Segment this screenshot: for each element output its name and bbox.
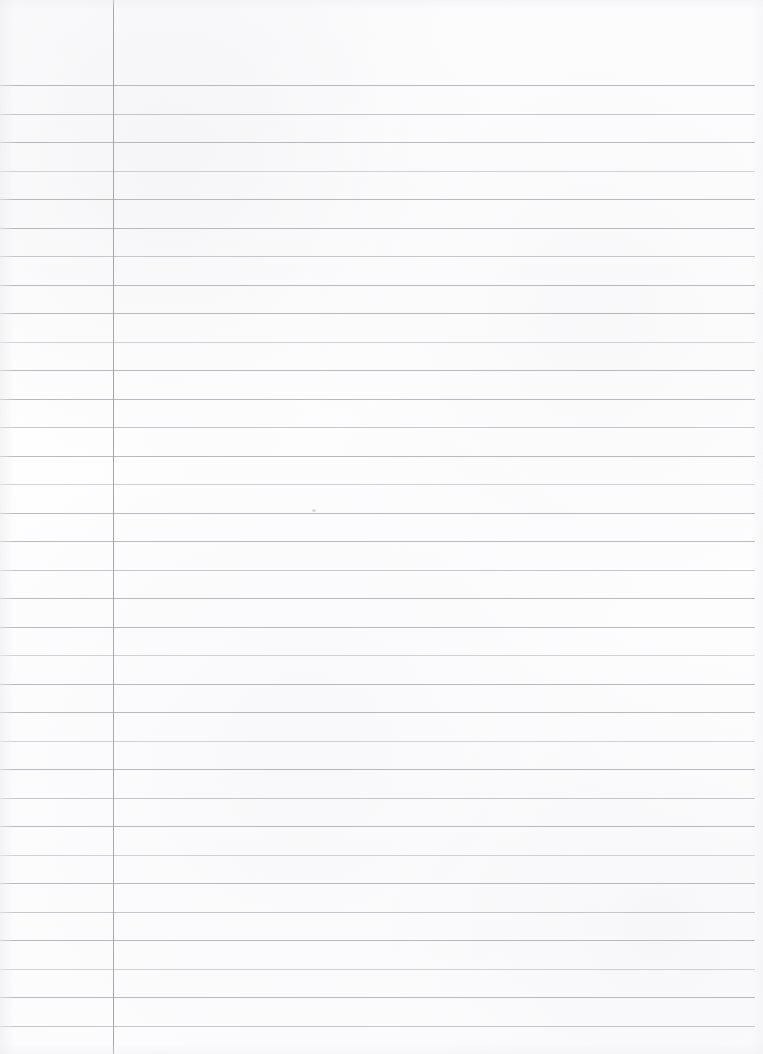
scan-vignette	[0, 0, 763, 1054]
vertical-margin-rule	[113, 0, 114, 1054]
ruled-lines-group	[0, 0, 763, 1054]
page-header-zone	[0, 0, 763, 85]
paper-speck-mark	[312, 509, 316, 512]
notebook-page	[0, 0, 763, 1054]
paper-texture	[0, 0, 763, 1054]
